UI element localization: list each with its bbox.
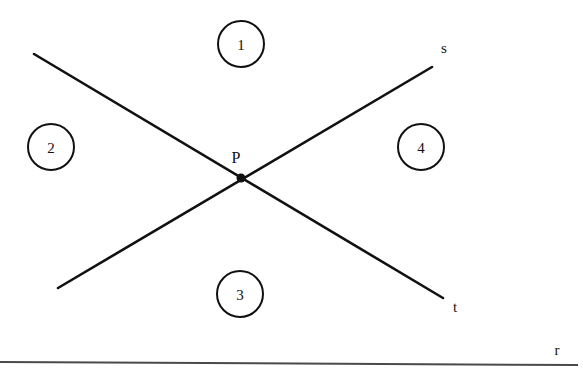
- region-label-4: 4: [417, 140, 425, 156]
- geometry-diagram: s t r P 1 2 3 4: [0, 0, 583, 381]
- line-label-s: s: [441, 40, 447, 56]
- line-label-r: r: [555, 342, 560, 358]
- point-p-dot[interactable]: [237, 174, 246, 183]
- line-r[interactable]: [0, 362, 578, 365]
- diagram-canvas: s t r P 1 2 3 4: [0, 0, 583, 381]
- region-label-1: 1: [237, 37, 245, 53]
- line-label-t: t: [453, 299, 458, 315]
- point-label-p: P: [232, 149, 241, 166]
- region-label-2: 2: [47, 140, 55, 156]
- region-label-3: 3: [236, 287, 244, 303]
